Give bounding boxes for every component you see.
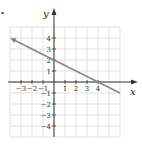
svg-text:−3: −3	[41, 112, 51, 120]
coordinate-plane: • −3−2−11234−4−3−2−11234 y x	[0, 0, 142, 146]
svg-text:3: 3	[85, 85, 89, 93]
svg-text:3: 3	[47, 46, 51, 54]
svg-text:2: 2	[74, 85, 78, 93]
svg-text:1: 1	[47, 68, 51, 76]
svg-text:4: 4	[47, 35, 52, 43]
svg-text:−4: −4	[41, 123, 52, 131]
svg-text:−3: −3	[16, 85, 26, 93]
svg-text:1: 1	[63, 85, 67, 93]
y-axis-label: y	[42, 8, 49, 19]
x-axis-label: x	[130, 86, 136, 97]
svg-text:−2: −2	[27, 85, 37, 93]
svg-text:4: 4	[96, 85, 101, 93]
problem-bullet: •	[1, 8, 4, 18]
svg-text:−1: −1	[41, 90, 51, 98]
svg-text:−2: −2	[41, 101, 51, 109]
